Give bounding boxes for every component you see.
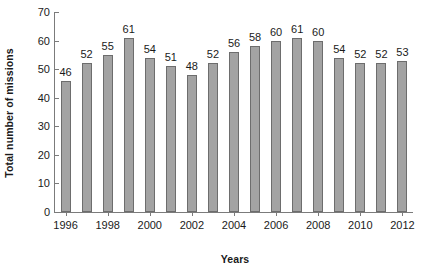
x-tick-mark: [402, 212, 403, 216]
y-tick-mark: [55, 41, 59, 42]
y-tick-label: 40: [38, 92, 50, 104]
y-tick-label: 50: [38, 63, 50, 75]
y-axis-title-text: Total number of missions: [3, 48, 15, 177]
x-tick-mark: [276, 212, 277, 216]
x-tick-label: 1996: [53, 219, 77, 231]
bar: [166, 66, 176, 212]
bar-value-label: 61: [291, 23, 303, 35]
bar-value-label: 60: [270, 26, 282, 38]
x-tick-mark: [192, 212, 193, 216]
x-tick-mark: [234, 212, 235, 216]
bar-value-label: 60: [312, 26, 324, 38]
y-tick-mark: [55, 183, 59, 184]
bar-value-label: 51: [165, 51, 177, 63]
x-tick-label: 2010: [348, 219, 372, 231]
bar: [376, 63, 386, 212]
bar: [397, 61, 407, 212]
bar: [145, 58, 155, 212]
y-tick-mark: [55, 12, 59, 13]
y-tick-label: 60: [38, 35, 50, 47]
y-tick-mark: [55, 126, 59, 127]
bar-value-label: 54: [144, 43, 156, 55]
bar-value-label: 53: [396, 46, 408, 58]
x-tick-label: 2012: [390, 219, 414, 231]
x-tick-mark: [360, 212, 361, 216]
bar-value-label: 58: [249, 31, 261, 43]
x-tick-label: 2004: [222, 219, 246, 231]
bar: [208, 63, 218, 212]
x-axis-title: Years: [55, 253, 415, 265]
bar-value-label: 52: [80, 48, 92, 60]
bar: [229, 52, 239, 212]
bar-value-label: 52: [354, 48, 366, 60]
bar-value-label: 48: [186, 60, 198, 72]
bar-value-label: 61: [123, 23, 135, 35]
bar: [250, 46, 260, 212]
y-tick-mark: [55, 155, 59, 156]
y-tick-label: 0: [44, 206, 50, 218]
y-axis-title: Total number of missions: [0, 0, 18, 225]
bar-value-label: 52: [375, 48, 387, 60]
bar-value-label: 55: [102, 40, 114, 52]
x-tick-label: 1998: [95, 219, 119, 231]
x-tick-label: 2000: [138, 219, 162, 231]
bar: [355, 63, 365, 212]
y-tick-label: 20: [38, 149, 50, 161]
bar: [61, 81, 71, 212]
bar: [334, 58, 344, 212]
plot-area: 010203040506070 199619982000200220042006…: [55, 12, 413, 212]
bar-chart-figure: Total number of missions 010203040506070…: [0, 0, 428, 275]
y-tick-mark: [55, 98, 59, 99]
bar-value-label: 54: [333, 43, 345, 55]
x-tick-label: 2008: [306, 219, 330, 231]
bar: [271, 41, 281, 212]
y-tick-mark: [55, 212, 59, 213]
x-tick-mark: [108, 212, 109, 216]
bar-value-label: 46: [59, 66, 71, 78]
x-tick-mark: [150, 212, 151, 216]
bar: [103, 55, 113, 212]
y-tick-label: 10: [38, 177, 50, 189]
bar-value-label: 56: [228, 37, 240, 49]
x-tick-mark: [66, 212, 67, 216]
bar-value-label: 52: [207, 48, 219, 60]
x-tick-mark: [318, 212, 319, 216]
bar: [187, 75, 197, 212]
bar: [82, 63, 92, 212]
bar: [124, 38, 134, 212]
bar: [313, 41, 323, 212]
y-tick-mark: [55, 69, 59, 70]
bar: [292, 38, 302, 212]
y-tick-label: 70: [38, 6, 50, 18]
x-tick-label: 2002: [180, 219, 204, 231]
x-tick-label: 2006: [264, 219, 288, 231]
y-tick-label: 30: [38, 120, 50, 132]
